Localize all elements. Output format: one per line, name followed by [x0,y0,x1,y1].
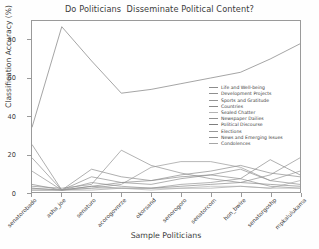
x-axis-label: Sample Politicians [31,231,301,240]
legend-label: Political Discourse [221,122,263,127]
legend-label: Newspaper Dailies [221,116,264,121]
legend-swatch-icon [209,118,218,119]
series-line [32,158,300,190]
legend-label: Countries [221,104,243,109]
y-tick-label: 40 [0,113,16,121]
legend-item[interactable]: Sports and Gratitude [209,97,297,103]
legend-label: Sealed Chatter [221,110,255,115]
legend-item[interactable]: Life and Well-being [209,85,297,91]
legend-swatch-icon [209,87,218,88]
legend-item[interactable]: Elections [209,128,297,134]
legend-item[interactable]: Condolences [209,141,297,147]
y-tick-label: 80 [0,36,16,44]
legend-label: Condolences [221,141,250,146]
legend-swatch-icon [209,112,218,113]
series-line [32,144,300,190]
legend-label: Life and Well-being [221,85,265,90]
legend-swatch-icon [209,143,218,144]
legend-item[interactable]: Newspaper Dailies [209,116,297,122]
legend-label: Sports and Gratitude [221,98,269,103]
legend-label: News and Emerging Issues [221,135,283,140]
x-tick-mark [181,193,182,197]
y-axis-label: Classification Accuracy (%) [4,0,13,117]
legend-swatch-icon [209,93,218,94]
y-tick-label: 0 [0,190,16,198]
legend-swatch-icon [209,137,218,138]
chart-title: Do Politicians Disseminate Political Con… [0,4,319,14]
y-tick-label: 20 [0,151,16,159]
legend-swatch-icon [209,131,218,132]
legend-item[interactable]: Sealed Chatter [209,110,297,116]
legend-item[interactable]: Political Discourse [209,122,297,128]
chart-figure: Do Politicians Disseminate Political Con… [0,0,319,249]
x-tick-mark [31,193,32,197]
chart-legend: Life and Well-beingDevelopment ProjectsS… [207,83,299,149]
legend-label: Elections [221,129,242,134]
legend-swatch-icon [209,124,218,125]
legend-item[interactable]: Countries [209,104,297,110]
legend-item[interactable]: News and Emerging Issues [209,135,297,141]
legend-swatch-icon [209,100,218,101]
legend-swatch-icon [209,106,218,107]
legend-item[interactable]: Development Projects [209,91,297,97]
legend-label: Development Projects [221,91,272,96]
y-tick-label: 60 [0,74,16,82]
